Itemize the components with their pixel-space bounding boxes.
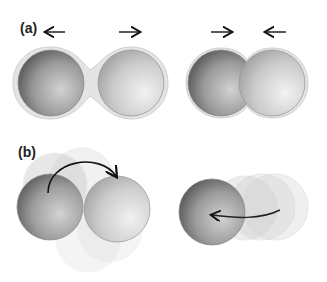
- panel-a-merging-pair: [186, 32, 308, 118]
- sphere-light: [239, 50, 305, 116]
- panel-b-sliding-pair: [179, 174, 308, 245]
- panel-a-separating-pair: [13, 32, 168, 119]
- panel-b-rotating-pair: [17, 148, 150, 272]
- sphere-light: [98, 50, 164, 116]
- sphere-dark: [179, 179, 245, 245]
- sphere-light: [84, 176, 150, 242]
- diagram-canvas: [0, 0, 327, 282]
- sphere-dark: [18, 50, 84, 116]
